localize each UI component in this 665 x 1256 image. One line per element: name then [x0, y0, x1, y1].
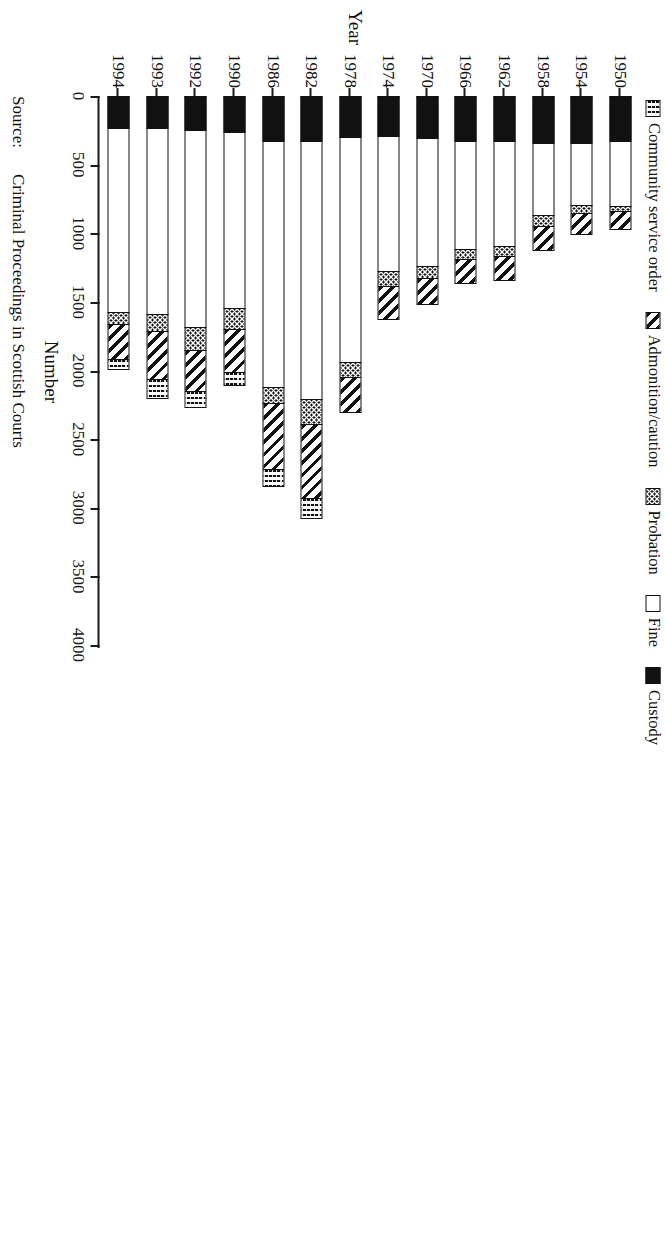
legend-label: Custody: [643, 690, 663, 745]
segment-custody[interactable]: [609, 96, 631, 141]
legend-item-custody[interactable]: Custody: [643, 667, 663, 745]
value-tick-2500: [90, 439, 99, 441]
segment-probation[interactable]: [223, 308, 245, 329]
category-tick: [463, 88, 465, 96]
segment-fine[interactable]: [262, 141, 284, 387]
segment-fine[interactable]: [146, 128, 168, 313]
category-label-1974: 1974: [377, 2, 397, 88]
segment-probation[interactable]: [377, 271, 399, 286]
segment-fine[interactable]: [184, 130, 206, 328]
category-tick: [193, 88, 195, 96]
bar-1990[interactable]: [223, 96, 245, 386]
legend-swatch-icon: [646, 312, 661, 329]
segment-fine[interactable]: [416, 138, 438, 266]
category-tick: [271, 88, 273, 96]
bar-1966[interactable]: [454, 96, 476, 284]
category-label-1986: 1986: [262, 2, 282, 88]
segment-probation[interactable]: [416, 266, 438, 278]
bar-1986[interactable]: [262, 96, 284, 487]
segment-probation[interactable]: [262, 387, 284, 403]
category-tick: [502, 88, 504, 96]
segment-admonition-caution[interactable]: [454, 259, 476, 284]
segment-community-service-order[interactable]: [146, 379, 168, 398]
segment-community-service-order[interactable]: [262, 469, 284, 488]
bar-1974[interactable]: [377, 96, 399, 320]
segment-probation[interactable]: [339, 362, 361, 377]
segment-admonition-caution[interactable]: [262, 403, 284, 469]
chart-figure: Community service orderAdmonition/cautio…: [0, 0, 665, 1256]
plot-area: [99, 96, 639, 645]
bar-1958[interactable]: [532, 96, 554, 251]
segment-fine[interactable]: [454, 141, 476, 249]
segment-probation[interactable]: [300, 399, 322, 424]
segment-probation[interactable]: [532, 215, 554, 226]
bar-1954[interactable]: [570, 96, 592, 235]
source-label: Source:: [7, 96, 27, 148]
segment-fine[interactable]: [107, 128, 129, 312]
bar-1992[interactable]: [184, 96, 206, 408]
segment-admonition-caution[interactable]: [609, 211, 631, 230]
segment-custody[interactable]: [300, 96, 322, 141]
source-text: Criminal Proceedings in Scottish Courts: [7, 174, 27, 448]
segment-fine[interactable]: [493, 141, 515, 245]
segment-admonition-caution[interactable]: [146, 331, 168, 379]
segment-probation[interactable]: [184, 327, 206, 350]
segment-admonition-caution[interactable]: [339, 377, 361, 413]
value-tick-0: [90, 96, 99, 98]
bar-1962[interactable]: [493, 96, 515, 281]
segment-custody[interactable]: [107, 96, 129, 128]
segment-community-service-order[interactable]: [300, 498, 322, 519]
segment-custody[interactable]: [184, 96, 206, 130]
segment-probation[interactable]: [107, 312, 129, 324]
segment-custody[interactable]: [377, 96, 399, 136]
bar-1994[interactable]: [107, 96, 129, 370]
legend-item-fine[interactable]: Fine: [643, 595, 663, 647]
category-tick: [386, 88, 388, 96]
segment-admonition-caution[interactable]: [416, 278, 438, 305]
value-tick-4000: [90, 645, 99, 647]
segment-admonition-caution[interactable]: [107, 324, 129, 359]
segment-custody[interactable]: [570, 96, 592, 143]
bar-1978[interactable]: [339, 96, 361, 413]
segment-admonition-caution[interactable]: [184, 350, 206, 391]
segment-probation[interactable]: [454, 249, 476, 259]
segment-admonition-caution[interactable]: [300, 424, 322, 498]
segment-custody[interactable]: [262, 96, 284, 141]
legend-item-probation[interactable]: Probation: [643, 488, 663, 575]
segment-custody[interactable]: [223, 96, 245, 132]
segment-admonition-caution[interactable]: [532, 226, 554, 251]
segment-probation[interactable]: [493, 246, 515, 256]
bar-1970[interactable]: [416, 96, 438, 305]
segment-admonition-caution[interactable]: [570, 213, 592, 236]
legend-label: Fine: [643, 618, 663, 647]
segment-fine[interactable]: [570, 143, 592, 205]
bar-1982[interactable]: [300, 96, 322, 519]
segment-fine[interactable]: [609, 141, 631, 206]
value-tick-label-2500: 2500: [67, 422, 87, 456]
value-tick-label-3500: 3500: [67, 559, 87, 593]
segment-custody[interactable]: [532, 96, 554, 143]
segment-fine[interactable]: [532, 143, 554, 216]
segment-custody[interactable]: [493, 96, 515, 141]
segment-community-service-order[interactable]: [184, 391, 206, 407]
segment-custody[interactable]: [339, 96, 361, 137]
category-label-1993: 1993: [146, 2, 166, 88]
segment-admonition-caution[interactable]: [223, 329, 245, 372]
segment-community-service-order[interactable]: [107, 359, 129, 371]
segment-custody[interactable]: [454, 96, 476, 141]
bar-1993[interactable]: [146, 96, 168, 399]
segment-admonition-caution[interactable]: [493, 256, 515, 281]
segment-probation[interactable]: [570, 205, 592, 213]
segment-community-service-order[interactable]: [223, 372, 245, 386]
segment-probation[interactable]: [146, 314, 168, 332]
legend-item-admonition-caution[interactable]: Admonition/caution: [643, 312, 663, 468]
segment-fine[interactable]: [339, 137, 361, 362]
segment-fine[interactable]: [377, 136, 399, 271]
legend-item-community-service-order[interactable]: Community service order: [643, 100, 663, 292]
segment-fine[interactable]: [223, 132, 245, 308]
segment-admonition-caution[interactable]: [377, 286, 399, 320]
segment-custody[interactable]: [416, 96, 438, 138]
segment-custody[interactable]: [146, 96, 168, 128]
segment-fine[interactable]: [300, 141, 322, 399]
bar-1950[interactable]: [609, 96, 631, 230]
